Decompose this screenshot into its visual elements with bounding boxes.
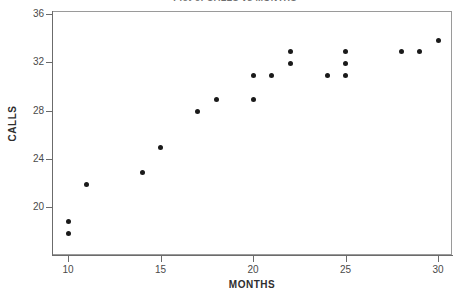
y-axis-tick-label: 24	[22, 153, 44, 164]
x-axis-title: MONTHS	[52, 279, 452, 290]
data-point	[343, 49, 348, 54]
plot-area	[52, 11, 452, 255]
chart-title: Plot of CALLS vs MONTHS	[0, 0, 470, 2]
y-axis-tick	[46, 159, 52, 160]
data-point	[399, 49, 404, 54]
data-point	[269, 73, 274, 78]
y-axis-tick	[46, 14, 52, 15]
x-axis-tick	[346, 256, 347, 262]
x-axis-tick	[438, 256, 439, 262]
data-point	[288, 49, 293, 54]
data-point	[288, 61, 293, 66]
data-point	[84, 182, 89, 187]
x-axis-tick	[253, 256, 254, 262]
y-axis-tick-label: 36	[22, 8, 44, 19]
y-axis-tick	[46, 207, 52, 208]
x-axis-tick-label: 30	[423, 264, 453, 275]
data-point	[66, 219, 71, 224]
x-axis-tick-label: 10	[53, 264, 83, 275]
data-point	[417, 49, 422, 54]
x-axis-tick	[161, 256, 162, 262]
y-axis-tick	[46, 111, 52, 112]
data-point	[214, 97, 219, 102]
data-point	[66, 231, 71, 236]
data-point	[251, 97, 256, 102]
data-point	[325, 73, 330, 78]
data-point	[343, 61, 348, 66]
y-axis-tick	[46, 62, 52, 63]
scatter-chart-figure: Plot of CALLS vs MONTHS 2024283236 10152…	[0, 0, 470, 295]
data-point	[140, 170, 145, 175]
data-point	[251, 73, 256, 78]
x-axis-tick-label: 25	[331, 264, 361, 275]
data-point	[436, 38, 441, 43]
x-axis-tick-label: 20	[238, 264, 268, 275]
x-axis-tick	[68, 256, 69, 262]
data-point	[343, 73, 348, 78]
y-axis-tick-label: 20	[22, 201, 44, 212]
y-axis-tick-label: 28	[22, 105, 44, 116]
y-axis-tick-label: 32	[22, 56, 44, 67]
y-axis-title: CALLS	[7, 89, 18, 159]
x-axis-tick-label: 15	[146, 264, 176, 275]
y-axis-line	[52, 11, 53, 256]
